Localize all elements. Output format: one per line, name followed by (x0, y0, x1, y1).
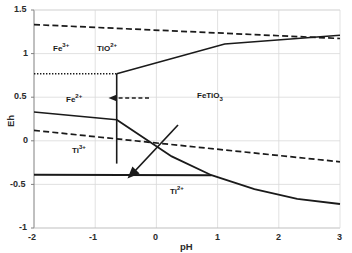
y-tick-label-1-5: 1.5 (14, 5, 27, 14)
plot-frame (34, 10, 340, 228)
annotation-fe3plus: Fe3+ (53, 42, 69, 53)
annotation-ti2plus: Ti2+ (170, 185, 184, 196)
series-water-upper-stability-line (34, 25, 340, 39)
x-tick-label-0: 0 (153, 233, 158, 242)
fe2-left-arrow (109, 95, 150, 102)
x-tick-label-neg-2: -2 (28, 233, 36, 242)
annotation-ti3plus: Ti3+ (72, 144, 86, 155)
y-tick-label-1: 1 (23, 49, 28, 58)
x-tick-label-2: 2 (276, 233, 281, 242)
x-tick-label-neg-1: -1 (89, 233, 97, 242)
x-tick-label-1: 1 (215, 233, 220, 242)
x-axis-title: pH (180, 242, 193, 252)
y-tick-label-neg-0-5: -0.5 (10, 180, 26, 189)
eh-ph-pourbaix-diagram: 1.5 1 0.5 0 -0.5 -1 -2 -1 0 1 2 3 pH Eh … (0, 0, 352, 253)
y-tick-label-neg-1: -1 (19, 223, 27, 232)
annotation-fe2plus: Fe2+ (66, 93, 82, 104)
y-axis-title: Eh (6, 115, 16, 127)
plot-canvas (0, 0, 352, 253)
y-tick-label-0: 0 (23, 136, 28, 145)
x-tick-label-3: 3 (337, 233, 342, 242)
annotation-tio2plus: TiO2+ (97, 42, 117, 53)
series-fetio3-descending-boundary (117, 120, 340, 204)
series-fe2-lower-boundary-left (34, 112, 117, 120)
y-tick-label-0-5: 0.5 (14, 92, 27, 101)
series-tio2-fetio3-rising-boundary (117, 35, 340, 73)
annotation-fetio3: FeTiO3 (197, 92, 223, 102)
